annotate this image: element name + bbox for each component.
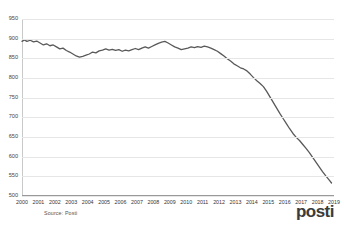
gridline-y-900 <box>22 39 334 40</box>
x-tick-label-2015: 2015 <box>262 200 274 205</box>
y-tick-label-750: 750 <box>0 95 18 101</box>
x-tick-label-2016: 2016 <box>279 200 291 205</box>
x-tick-label-2013: 2013 <box>230 200 242 205</box>
chart-page: 500550600650700750800850900950 200020012… <box>0 0 344 227</box>
y-tick-label-850: 850 <box>0 55 18 61</box>
y-tick-label-550: 550 <box>0 173 18 179</box>
x-tick-label-2007: 2007 <box>131 200 143 205</box>
y-tick-label-950: 950 <box>0 16 18 22</box>
x-tick-label-2005: 2005 <box>98 200 110 205</box>
gridline-y-650 <box>22 137 334 138</box>
source-label: Source: Posti <box>44 210 77 216</box>
clipped-header-strip <box>0 0 344 9</box>
line-chart: 500550600650700750800850900950 200020012… <box>0 9 344 189</box>
y-tick-label-900: 900 <box>0 36 18 42</box>
plot-area: 500550600650700750800850900950 <box>22 19 334 196</box>
gridline-y-950 <box>22 19 334 20</box>
x-tick-label-2010: 2010 <box>180 200 192 205</box>
posti-logo: posti <box>296 203 334 220</box>
x-tick-label-2002: 2002 <box>49 200 61 205</box>
x-tick-label-2008: 2008 <box>147 200 159 205</box>
series-path-volume <box>22 40 332 183</box>
y-tick-label-700: 700 <box>0 114 18 120</box>
y-tick-label-650: 650 <box>0 134 18 140</box>
gridline-y-850 <box>22 58 334 59</box>
y-tick-label-800: 800 <box>0 75 18 81</box>
gridline-y-700 <box>22 117 334 118</box>
x-tick-label-2009: 2009 <box>164 200 176 205</box>
x-axis-tick-labels: 2000200120022003200420052006200720082009… <box>22 200 334 210</box>
series-line <box>22 19 334 196</box>
x-tick-label-2001: 2001 <box>33 200 45 205</box>
x-tick-label-2004: 2004 <box>82 200 94 205</box>
x-tick-label-2014: 2014 <box>246 200 258 205</box>
x-tick-label-2011: 2011 <box>197 200 208 205</box>
gridline-y-800 <box>22 78 334 79</box>
x-tick-label-2012: 2012 <box>213 200 225 205</box>
x-tick-label-2000: 2000 <box>16 200 28 205</box>
gridline-y-500 <box>22 196 334 197</box>
y-tick-label-600: 600 <box>0 154 18 160</box>
x-tick-label-2003: 2003 <box>65 200 77 205</box>
posti-logo-text: posti <box>296 202 334 221</box>
gridline-y-550 <box>22 176 334 177</box>
gridline-y-750 <box>22 98 334 99</box>
y-tick-label-500: 500 <box>0 193 18 199</box>
x-tick-label-2006: 2006 <box>115 200 127 205</box>
gridline-y-600 <box>22 157 334 158</box>
